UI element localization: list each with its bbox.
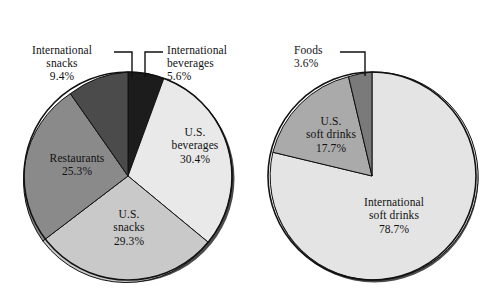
slice-label-international-soft-drinks-line1: International bbox=[340, 196, 448, 209]
slice-label-us-snacks-line2: snacks bbox=[86, 221, 172, 234]
slice-label-us-beverages-value: 30.4% bbox=[152, 153, 238, 166]
slice-label-us-snacks: U.S. snacks 29.3% bbox=[86, 208, 172, 248]
callout-label-foods: Foods 3.6% bbox=[294, 44, 354, 70]
slice-label-restaurants-line1: Restaurants bbox=[30, 152, 124, 165]
slice-label-us-soft-drinks-line1: U.S. bbox=[288, 115, 374, 128]
callout-label-international-beverages: International beverages 5.6% bbox=[167, 44, 277, 84]
slice-label-restaurants: Restaurants 25.3% bbox=[30, 152, 124, 179]
slice-label-us-soft-drinks-line2: soft drinks bbox=[288, 128, 374, 141]
callout-international-snacks-line2: snacks bbox=[14, 57, 110, 70]
slice-label-us-snacks-line1: U.S. bbox=[86, 208, 172, 221]
slice-label-us-soft-drinks-value: 17.7% bbox=[288, 142, 374, 155]
callout-international-beverages-line2: beverages bbox=[167, 57, 277, 70]
callout-foods-value: 3.6% bbox=[294, 57, 354, 70]
callout-label-international-snacks: International snacks 9.4% bbox=[14, 44, 110, 84]
slice-label-us-beverages: U.S. beverages 30.4% bbox=[152, 126, 238, 166]
slice-label-international-soft-drinks: International soft drinks 78.7% bbox=[340, 196, 448, 236]
callout-international-snacks-line1: International bbox=[14, 44, 110, 57]
callout-international-snacks-value: 9.4% bbox=[14, 70, 110, 83]
slice-label-us-beverages-line2: beverages bbox=[152, 139, 238, 152]
slice-label-us-soft-drinks: U.S. soft drinks 17.7% bbox=[288, 115, 374, 155]
slice-label-international-soft-drinks-line2: soft drinks bbox=[340, 209, 448, 222]
slice-label-restaurants-value: 25.3% bbox=[30, 165, 124, 178]
callout-foods-line1: Foods bbox=[294, 44, 354, 57]
callout-international-beverages-value: 5.6% bbox=[167, 70, 277, 83]
slice-label-international-soft-drinks-value: 78.7% bbox=[340, 223, 448, 236]
pie-charts-figure: International snacks 9.4% International … bbox=[0, 0, 498, 299]
callout-international-beverages-line1: International bbox=[167, 44, 277, 57]
slice-label-us-snacks-value: 29.3% bbox=[86, 235, 172, 248]
slice-label-us-beverages-line1: U.S. bbox=[152, 126, 238, 139]
